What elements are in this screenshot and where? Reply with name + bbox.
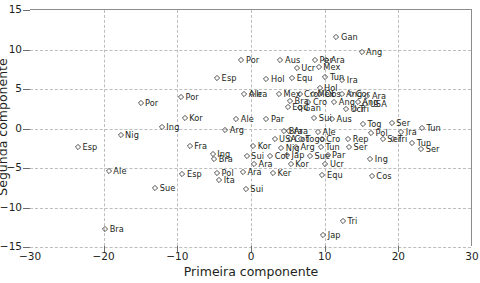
gridline-vertical [398, 10, 399, 246]
data-point-marker [352, 106, 358, 112]
data-point-label: USA [370, 99, 387, 109]
data-point-label: Tun [426, 123, 440, 133]
data-point-label: Ara [247, 167, 261, 177]
data-point-label: Por [246, 55, 259, 65]
data-point-label: Ang [366, 47, 382, 57]
data-point-label: Esp [187, 169, 202, 179]
data-point-marker [360, 121, 366, 127]
data-point-marker [345, 136, 351, 142]
x-axis-tick-label: −30 [19, 250, 41, 262]
data-point-marker [368, 130, 374, 136]
data-point-label: Gan [341, 32, 358, 42]
data-point-label: Nig [125, 130, 139, 140]
data-point-marker [241, 91, 247, 97]
data-point-marker [118, 132, 124, 138]
data-point-marker [75, 144, 81, 150]
y-axis-tick-label: −10 [0, 201, 22, 213]
y-axis-label: Segunda componente [0, 58, 10, 195]
data-point-label: Hol [271, 74, 285, 84]
y-axis-tick-label: 5 [15, 82, 22, 94]
data-point-marker [320, 232, 326, 238]
data-point-marker [187, 143, 193, 149]
data-point-label: Sui [250, 184, 263, 194]
y-axis-tick [23, 89, 30, 90]
data-point-label: Tri [348, 216, 358, 226]
data-point-label: Arg [230, 125, 244, 135]
data-point-label: Cos [376, 171, 391, 181]
data-point-marker [325, 152, 331, 158]
data-point-label: Ing [375, 154, 388, 164]
data-point-marker [331, 99, 337, 105]
data-point-label: Tri [398, 134, 408, 144]
data-point-marker [138, 100, 144, 106]
data-point-marker [214, 75, 220, 81]
data-point-marker [310, 91, 316, 97]
data-point-marker [322, 74, 328, 80]
data-point-marker [159, 124, 165, 130]
data-point-label: Bra [219, 154, 233, 164]
data-point-label: Par [271, 114, 284, 124]
data-point-label: Tri [359, 104, 369, 114]
y-axis-tick-label: 0 [15, 122, 22, 134]
data-point-marker [263, 76, 269, 82]
data-point-label: Esp [222, 73, 237, 83]
data-point-marker [211, 156, 217, 162]
data-point-label: Gan [304, 103, 321, 113]
data-point-marker [319, 172, 325, 178]
y-axis-tick-label: 10 [9, 43, 22, 55]
data-point-marker [182, 115, 188, 121]
x-axis-tick-label: −10 [166, 250, 188, 262]
y-axis-tick-label: −5 [7, 161, 22, 173]
data-point-label: Kor [189, 113, 203, 123]
data-point-marker [287, 136, 293, 142]
data-point-marker [380, 136, 386, 142]
data-point-marker [339, 77, 345, 83]
data-point-marker [284, 152, 290, 158]
data-point-marker [244, 153, 250, 159]
data-point-label: Ser [426, 144, 440, 154]
data-point-marker [316, 64, 322, 70]
data-point-marker [311, 115, 317, 121]
data-point-marker [390, 136, 396, 142]
data-point-label: Equ [327, 170, 343, 180]
data-point-marker [419, 125, 425, 131]
data-point-marker [409, 140, 415, 146]
data-point-marker [222, 127, 228, 133]
data-point-marker [294, 65, 300, 71]
data-point-marker [233, 116, 239, 122]
data-point-label: Por [145, 98, 158, 108]
data-point-marker [333, 34, 339, 40]
data-point-marker [152, 185, 158, 191]
data-point-marker [243, 186, 249, 192]
data-point-label: Jap [328, 230, 341, 240]
data-point-marker [106, 168, 112, 174]
scatter-plot-figure: Segunda componente Primeira componente 1… [0, 0, 480, 283]
y-axis-tick [23, 50, 30, 51]
data-point-label: Sue [160, 183, 176, 193]
data-point-label: Ale [113, 166, 126, 176]
x-axis-tick-label: −20 [93, 250, 115, 262]
y-axis-tick [23, 247, 30, 248]
data-point-marker [272, 136, 278, 142]
data-point-label: Per [320, 55, 333, 65]
data-point-label: Ser [353, 142, 367, 152]
data-point-marker [179, 171, 185, 177]
data-point-marker [250, 143, 256, 149]
data-point-marker [340, 218, 346, 224]
data-point-marker [214, 170, 220, 176]
data-point-marker [369, 173, 375, 179]
data-point-label: Ker [278, 168, 292, 178]
data-point-marker [343, 106, 349, 112]
y-axis-tick-label: 15 [9, 3, 22, 15]
x-axis-tick-label: 20 [392, 250, 405, 262]
data-point-marker [270, 170, 276, 176]
data-point-marker [319, 136, 325, 142]
data-point-marker [238, 57, 244, 63]
gridline-vertical [251, 10, 252, 246]
x-axis-label: Primeira componente [184, 264, 318, 279]
data-point-marker [240, 169, 246, 175]
data-point-marker [312, 57, 318, 63]
data-point-marker [359, 49, 365, 55]
data-point-marker [102, 226, 108, 232]
data-point-label: Ita [224, 175, 235, 185]
